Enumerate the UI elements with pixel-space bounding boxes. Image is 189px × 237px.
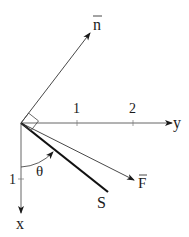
x-tick-label-1: 1 [9,172,16,187]
y-axis-label: y [173,114,181,132]
force-label: F [138,175,146,191]
surface-line [21,123,108,192]
x-axis-label: x [16,215,24,232]
y-tick-label-1: 1 [73,101,80,116]
right-angle-marker [21,113,39,131]
surface-label: S [97,194,106,211]
y-tick-label-2: 2 [129,101,136,116]
normal-label: n [93,16,101,33]
theta-label: θ [36,163,43,179]
diagram-canvas: n F S θ y x 1 2 1 [0,0,189,237]
